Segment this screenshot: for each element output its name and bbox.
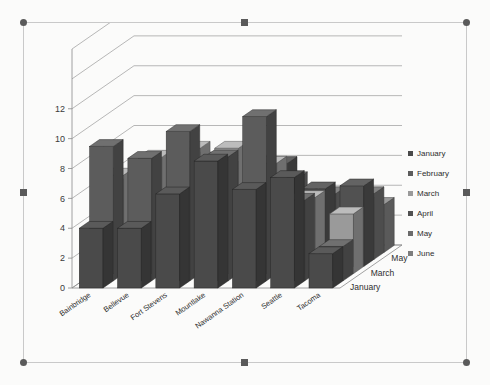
resize-handle-top-center[interactable]	[241, 19, 248, 26]
resize-handle-top-left[interactable]	[20, 19, 27, 26]
resize-handle-top-right[interactable]	[463, 19, 470, 26]
resize-handle-middle-right[interactable]	[463, 189, 470, 196]
resize-handle-bottom-center[interactable]	[241, 359, 248, 366]
resize-handle-middle-left[interactable]	[20, 189, 27, 196]
selection-frame[interactable]	[23, 22, 467, 363]
resize-handle-bottom-left[interactable]	[20, 359, 27, 366]
resize-handle-bottom-right[interactable]	[463, 359, 470, 366]
